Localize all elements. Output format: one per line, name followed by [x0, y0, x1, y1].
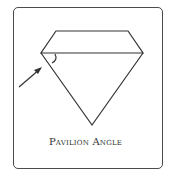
diamond-diagram	[0, 0, 171, 173]
caption-pavilion-angle: Pavilion Angle	[0, 136, 171, 147]
diamond-crown	[41, 31, 143, 53]
pavilion-angle-arc	[52, 54, 56, 63]
diamond-pavilion	[41, 53, 143, 125]
